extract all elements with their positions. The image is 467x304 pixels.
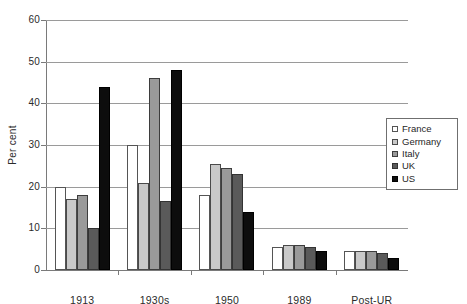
chart-legend: FranceGermanyItalyUKUS [386,118,458,190]
bar-us-1930s [171,70,182,270]
bar-germany-1989 [283,245,294,270]
legend-item-label: UK [402,161,415,171]
y-axis-tick-label: 50 [28,57,40,67]
x-axis-tick-label: 1989 [287,294,311,304]
y-axis-label-wrapper: Per cent [4,20,20,270]
legend-item-uk[interactable]: UK [392,160,453,172]
bar-france-1950 [199,195,210,270]
bar-france-1913 [55,187,66,270]
legend-swatch-icon [392,163,398,169]
legend-swatch-icon [392,176,398,182]
gridline [46,270,408,271]
bar-italy-post-ur [366,251,377,270]
x-axis-tick-label: Post-UR [351,294,392,304]
legend-item-france[interactable]: France [392,123,453,135]
x-axis-group-separator [336,270,337,275]
plot-area: 0102030405060 19131930s19501989Post-UR [46,20,408,270]
y-axis-tick-label: 20 [28,182,40,192]
x-axis-tick-label: 1913 [70,294,94,304]
legend-item-label: US [402,174,415,184]
bar-uk-post-ur [377,253,388,270]
bar-uk-1930s [160,201,171,270]
legend-swatch-icon [392,139,398,145]
legend-swatch-icon [392,151,398,157]
y-axis-tick-label: 60 [28,15,40,25]
bar-germany-post-ur [355,251,366,270]
legend-swatch-icon [392,126,398,132]
y-axis-tick-label: 10 [28,223,40,233]
bar-italy-1930s [149,78,160,270]
bar-uk-1913 [88,228,99,270]
bar-france-post-ur [344,251,355,270]
bar-us-1989 [316,251,327,270]
x-axis-group-separator [118,270,119,275]
y-axis-label: Per cent [7,125,18,165]
y-axis-tick-label: 0 [34,265,40,275]
bar-uk-1950 [232,174,243,270]
bar-germany-1950 [210,164,221,270]
bar-us-1950 [243,212,254,270]
bar-group [191,20,263,270]
legend-item-label: Germany [402,137,441,147]
bar-germany-1913 [66,199,77,270]
bar-italy-1950 [221,168,232,270]
bar-chart: Per cent 0102030405060 19131930s19501989… [0,0,467,304]
legend-item-label: France [402,124,432,134]
bar-italy-1989 [294,245,305,270]
bar-france-1930s [127,145,138,270]
bar-groups [46,20,408,270]
bar-germany-1930s [138,183,149,271]
bar-us-1913 [99,87,110,270]
bar-group [118,20,190,270]
x-axis-tick-label: 1930s [140,294,170,304]
y-axis-tick [41,270,46,271]
x-axis-group-separator [263,270,264,275]
y-axis-tick-label: 30 [28,140,40,150]
legend-item-italy[interactable]: Italy [392,148,453,160]
bar-uk-1989 [305,247,316,270]
x-axis-group-separator [191,270,192,275]
bar-group [46,20,118,270]
x-axis-tick-label: 1950 [215,294,239,304]
bar-france-1989 [272,247,283,270]
legend-item-us[interactable]: US [392,173,453,185]
legend-item-germany[interactable]: Germany [392,135,453,147]
bar-us-post-ur [388,258,399,271]
y-axis-tick-label: 40 [28,98,40,108]
bar-italy-1913 [77,195,88,270]
legend-item-label: Italy [402,149,419,159]
bar-group [263,20,335,270]
